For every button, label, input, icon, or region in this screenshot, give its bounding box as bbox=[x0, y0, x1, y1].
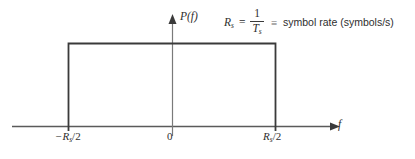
tick-left-tail: /2 bbox=[72, 130, 81, 142]
annotation-symbol: Rs bbox=[224, 16, 234, 30]
arrow-up-icon bbox=[169, 14, 177, 24]
annotation-description: symbol rate (symbols/s) bbox=[283, 16, 394, 28]
annotation-fraction: 1 Ts bbox=[250, 8, 263, 35]
tick-label-zero: 0 bbox=[167, 131, 173, 142]
tick-left-symbol: −R bbox=[55, 130, 69, 142]
annotation-equals-sign: = bbox=[239, 16, 246, 28]
y-axis-label: P(f) bbox=[180, 11, 198, 23]
tick-right-tail: /2 bbox=[273, 130, 282, 142]
identity-symbol: ≡ bbox=[271, 17, 277, 29]
spectral-density-figure: P(f) f −Rs/2 0 Rs/2 Rs = 1 Ts ≡ symbol r… bbox=[0, 0, 415, 159]
annotation-symbol-base: R bbox=[224, 16, 231, 28]
tick-right-symbol: R bbox=[263, 130, 270, 142]
tick-label-right: Rs/2 bbox=[263, 131, 281, 143]
fraction-denominator: Ts bbox=[250, 22, 263, 35]
fraction-numerator: 1 bbox=[252, 8, 262, 21]
symbol-rate-annotation: Rs = 1 Ts ≡ symbol rate (symbols/s) bbox=[224, 9, 394, 36]
x-axis-label: f bbox=[338, 119, 341, 131]
annotation-symbol-subscript: s bbox=[231, 20, 234, 29]
tick-label-left: −Rs/2 bbox=[55, 131, 81, 143]
fraction-denominator-subscript: s bbox=[259, 26, 262, 35]
